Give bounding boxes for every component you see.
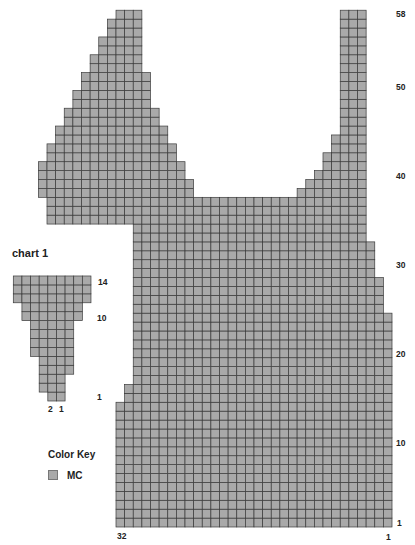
- stitch-cell: [220, 224, 229, 233]
- stitch-cell: [306, 215, 315, 224]
- stitch-cell: [151, 474, 160, 483]
- stitch-cell: [332, 180, 341, 189]
- stitch-cell: [116, 82, 125, 91]
- stitch-cell: [176, 474, 185, 483]
- stitch-cell: [74, 312, 83, 321]
- stitch-cell: [366, 278, 375, 287]
- stitch-cell: [168, 465, 177, 474]
- stitch-cell: [202, 518, 211, 527]
- stitch-cell: [280, 278, 289, 287]
- stitch-cell: [194, 322, 203, 331]
- stitch-cell: [194, 420, 203, 429]
- stitch-cell: [340, 420, 349, 429]
- stitch-cell: [314, 500, 323, 509]
- stitch-cell: [39, 365, 48, 374]
- stitch-cell: [228, 474, 237, 483]
- stitch-cell: [90, 108, 99, 117]
- stitch-cell: [323, 153, 332, 162]
- stitch-cell: [133, 73, 142, 82]
- stitch-cell: [133, 384, 142, 393]
- stitch-cell: [56, 312, 65, 321]
- stitch-cell: [133, 393, 142, 402]
- stitch-cell: [349, 82, 358, 91]
- stitch-cell: [306, 393, 315, 402]
- stitch-cell: [332, 313, 341, 322]
- stitch-cell: [185, 340, 194, 349]
- stitch-cell: [142, 500, 151, 509]
- stitch-cell: [116, 509, 125, 518]
- stitch-cell: [125, 384, 134, 393]
- stitch-cell: [176, 269, 185, 278]
- stitch-cell: [176, 340, 185, 349]
- stitch-cell: [159, 456, 168, 465]
- stitch-cell: [125, 55, 134, 64]
- stitch-cell: [332, 269, 341, 278]
- stitch-cell: [271, 278, 280, 287]
- stitch-cell: [159, 260, 168, 269]
- stitch-cell: [185, 278, 194, 287]
- stitch-cell: [142, 82, 151, 91]
- stitch-cell: [340, 269, 349, 278]
- stitch-cell: [168, 304, 177, 313]
- stitch-cell: [228, 322, 237, 331]
- stitch-cell: [107, 215, 116, 224]
- stitch-cell: [73, 99, 82, 108]
- stitch-cell: [349, 509, 358, 518]
- stitch-cell: [39, 312, 48, 321]
- stitch-cell: [90, 215, 99, 224]
- stitch-cell: [142, 242, 151, 251]
- stitch-cell: [159, 402, 168, 411]
- stitch-cell: [263, 304, 272, 313]
- stitch-cell: [228, 491, 237, 500]
- stitch-cell: [220, 304, 229, 313]
- stitch-cell: [159, 313, 168, 322]
- stitch-cell: [271, 465, 280, 474]
- stitch-cell: [237, 429, 246, 438]
- stitch-cell: [314, 482, 323, 491]
- stitch-cell: [159, 509, 168, 518]
- stitch-cell: [237, 322, 246, 331]
- stitch-cell: [176, 393, 185, 402]
- stitch-cell: [314, 349, 323, 358]
- stitch-cell: [125, 153, 134, 162]
- stitch-cell: [194, 384, 203, 393]
- stitch-cell: [185, 447, 194, 456]
- stitch-cell: [151, 322, 160, 331]
- stitch-cell: [202, 358, 211, 367]
- stitch-cell: [237, 411, 246, 420]
- stitch-cell: [133, 420, 142, 429]
- stitch-cell: [263, 215, 272, 224]
- stitch-cell: [133, 402, 142, 411]
- stitch-cell: [142, 367, 151, 376]
- stitch-cell: [211, 295, 220, 304]
- stitch-cell: [358, 269, 367, 278]
- stitch-cell: [211, 482, 220, 491]
- stitch-cell: [211, 322, 220, 331]
- stitch-cell: [383, 509, 392, 518]
- stitch-cell: [323, 518, 332, 527]
- stitch-cell: [220, 260, 229, 269]
- stitch-cell: [194, 269, 203, 278]
- stitch-cell: [314, 188, 323, 197]
- stitch-cell: [237, 242, 246, 251]
- stitch-cell: [39, 294, 48, 303]
- stitch-cell: [358, 286, 367, 295]
- stitch-cell: [263, 340, 272, 349]
- stitch-cell: [383, 393, 392, 402]
- stitch-cell: [151, 500, 160, 509]
- stitch-cell: [375, 456, 384, 465]
- stitch-cell: [211, 358, 220, 367]
- stitch-cell: [263, 393, 272, 402]
- stitch-cell: [107, 162, 116, 171]
- stitch-cell: [383, 518, 392, 527]
- stitch-cell: [358, 73, 367, 82]
- stitch-cell: [271, 224, 280, 233]
- stitch-cell: [125, 180, 134, 189]
- stitch-cell: [289, 295, 298, 304]
- stitch-cell: [358, 295, 367, 304]
- stitch-cell: [228, 429, 237, 438]
- stitch-cell: [323, 438, 332, 447]
- stitch-cell: [176, 456, 185, 465]
- stitch-cell: [323, 340, 332, 349]
- stitch-cell: [297, 206, 306, 215]
